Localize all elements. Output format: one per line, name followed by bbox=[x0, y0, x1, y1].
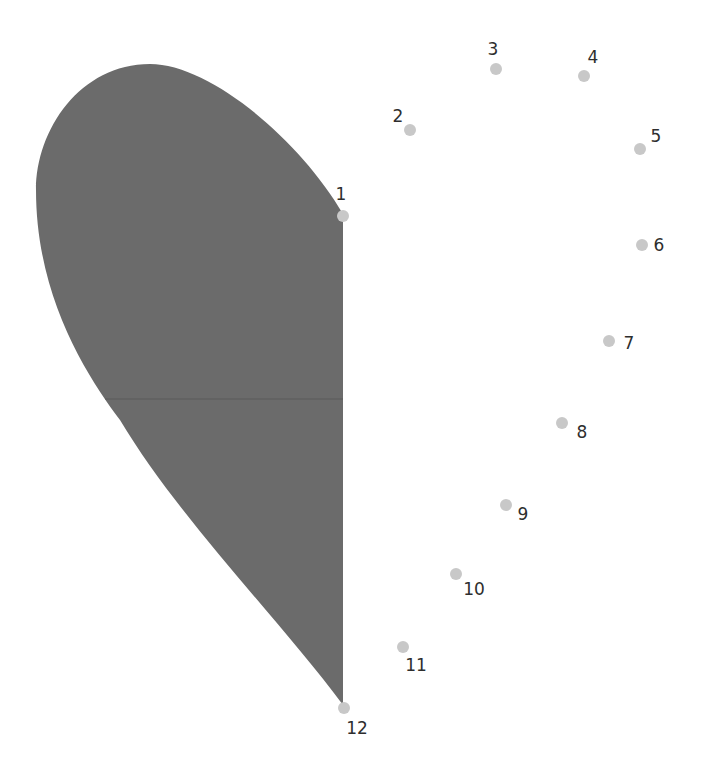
dot-7[interactable] bbox=[603, 335, 615, 347]
dot-6[interactable] bbox=[636, 239, 648, 251]
dot-label-4: 4 bbox=[588, 49, 599, 66]
dot-9[interactable] bbox=[500, 499, 512, 511]
dot-label-10: 10 bbox=[463, 581, 485, 598]
dot-label-6: 6 bbox=[654, 237, 665, 254]
dot-label-5: 5 bbox=[651, 128, 662, 145]
dot-10[interactable] bbox=[450, 568, 462, 580]
dot-12[interactable] bbox=[338, 702, 350, 714]
dot-label-8: 8 bbox=[577, 424, 588, 441]
dot-5[interactable] bbox=[634, 143, 646, 155]
dot-label-12: 12 bbox=[346, 720, 368, 737]
dot-label-3: 3 bbox=[488, 41, 499, 58]
dot-label-2: 2 bbox=[393, 108, 404, 125]
filled-half-heart bbox=[36, 64, 343, 705]
dot-label-9: 9 bbox=[518, 506, 529, 523]
dot-2[interactable] bbox=[404, 124, 416, 136]
dot-1[interactable] bbox=[337, 210, 349, 222]
dot-label-1: 1 bbox=[336, 186, 347, 203]
half-heart-shape bbox=[0, 0, 705, 782]
dot-11[interactable] bbox=[397, 641, 409, 653]
dot-to-dot-canvas: 123456789101112 bbox=[0, 0, 705, 782]
dot-label-11: 11 bbox=[405, 657, 427, 674]
dot-8[interactable] bbox=[556, 417, 568, 429]
dot-3[interactable] bbox=[490, 63, 502, 75]
dot-label-7: 7 bbox=[624, 335, 635, 352]
dot-4[interactable] bbox=[578, 70, 590, 82]
